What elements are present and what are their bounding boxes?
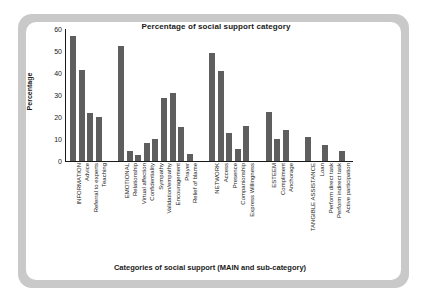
- x-axis-label: Categories of social support (MAIN and s…: [66, 263, 354, 272]
- x-axis-tick-label: Compliment: [274, 163, 280, 258]
- bar-fill: [79, 70, 85, 161]
- bar-fill: [87, 113, 93, 161]
- x-axis-tick-label: EMOTIONAL: [118, 163, 124, 258]
- x-axis-tick-label: Companionship: [235, 163, 241, 258]
- x-axis-tick-label-text: Express Willingness: [249, 163, 255, 217]
- x-axis-tick-label: Express Willingness: [243, 163, 249, 258]
- bar-fill: [305, 137, 311, 161]
- x-axis-tick-label: Teaching: [96, 163, 102, 258]
- x-axis-tick-label-text: Active participation: [345, 163, 351, 213]
- bar-fill: [127, 151, 133, 161]
- bar-fill: [274, 139, 280, 161]
- x-axis-tick-label: Perform indirect task: [331, 163, 337, 258]
- x-axis-tick-label-text: Anchorage: [288, 163, 294, 192]
- y-axis-tick-50: 50: [36, 48, 62, 55]
- bar-fill: [235, 149, 241, 161]
- x-axis-line: [65, 161, 353, 162]
- bar-fill: [266, 112, 272, 161]
- y-axis-tick-40: 40: [36, 70, 62, 77]
- bar-fill: [70, 36, 76, 161]
- y-axis-tick-10: 10: [36, 136, 62, 143]
- x-axis-tick-label: NETWORK: [209, 163, 215, 258]
- bar-series: [65, 29, 353, 161]
- x-axis-tick-label: INFORMATION: [70, 163, 76, 258]
- x-axis-tick-labels: INFORMATIONAdviceReferral to expertsTeac…: [65, 163, 353, 258]
- x-axis-tick-label: Presence: [226, 163, 232, 258]
- x-axis-tick-label: Access: [218, 163, 224, 258]
- y-axis-ticks: 0102030405060: [36, 0, 62, 301]
- bar-fill: [226, 133, 232, 161]
- x-axis-tick-label: Confidentiality: [144, 163, 150, 258]
- bar-fill: [152, 139, 158, 161]
- x-axis-tick-label: Referral to experts: [87, 163, 93, 258]
- bar-fill: [209, 53, 215, 161]
- x-axis-tick-label: Sympathy: [152, 163, 158, 258]
- x-axis-tick-label: ESTEEM: [266, 163, 272, 258]
- y-axis-tick-0: 0: [36, 158, 62, 165]
- x-axis-tick-label: Active participation: [339, 163, 345, 258]
- bar-fill: [144, 143, 150, 161]
- x-axis-tick-label: Relief of blame: [187, 163, 193, 258]
- x-axis-tick-label: Advice: [79, 163, 85, 258]
- x-axis-tick-label: Virtual affection: [135, 163, 141, 258]
- bar-fill: [170, 93, 176, 161]
- y-axis-tick-20: 20: [36, 114, 62, 121]
- bar-chart: Percentage of social support category Pe…: [0, 0, 427, 301]
- bar-fill: [243, 126, 249, 161]
- x-axis-tick-label: Perform direct task: [322, 163, 328, 258]
- bar-fill: [322, 145, 328, 162]
- bar-fill: [135, 155, 141, 161]
- x-axis-tick-label: TANGIBLE ASSISTANCE: [305, 163, 311, 258]
- y-axis-tick-30: 30: [36, 92, 62, 99]
- x-axis-tick-label: Encouragement: [170, 163, 176, 258]
- bar-fill: [218, 71, 224, 161]
- x-axis-tick-label: Loan: [314, 163, 320, 258]
- x-axis-tick-label: Prayer: [178, 163, 184, 258]
- bar-fill: [96, 117, 102, 161]
- bar-fill: [283, 130, 289, 161]
- bar-fill: [339, 151, 345, 161]
- y-axis-label: Percentage: [26, 52, 33, 132]
- x-axis-tick-label: Anchorage: [283, 163, 289, 258]
- bar-fill: [187, 154, 193, 161]
- x-axis-tick-label: Relationship: [127, 163, 133, 258]
- bar-fill: [118, 46, 124, 162]
- y-axis-tick-60: 60: [36, 26, 62, 33]
- x-axis-tick-label-text: Teaching: [101, 163, 107, 187]
- x-axis-tick-label: Validation/empathy: [161, 163, 167, 258]
- bar-fill: [161, 98, 167, 161]
- bar-fill: [178, 127, 184, 161]
- x-axis-tick-label-text: Relief of blame: [192, 163, 198, 203]
